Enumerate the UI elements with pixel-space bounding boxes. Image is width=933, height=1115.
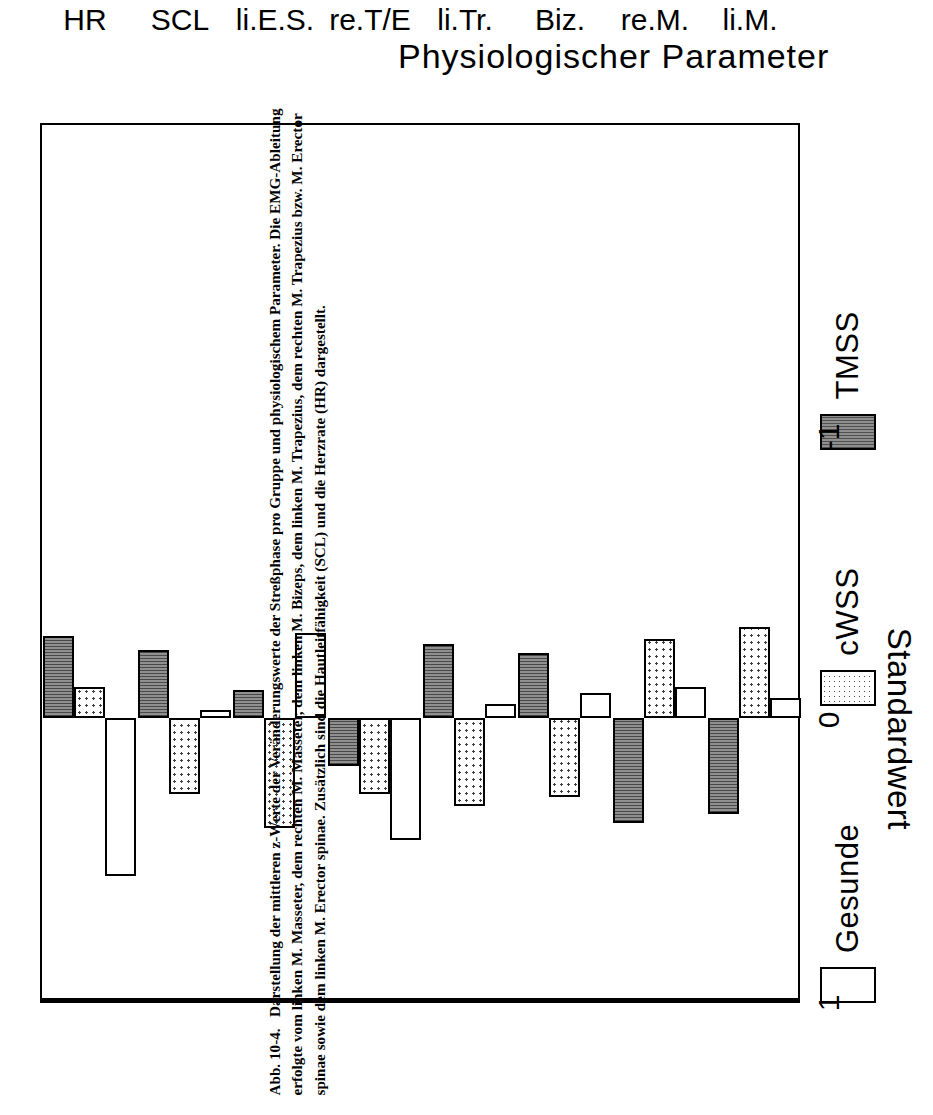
bar-gesunde-biz xyxy=(580,693,611,718)
figure-caption-text: Darstellung der mittleren z-Werte der Ve… xyxy=(266,109,328,1096)
legend-label-cwss: cWSS xyxy=(830,568,866,656)
bar-cwss-scl xyxy=(169,718,200,794)
y-axis-title: Standardwert xyxy=(880,628,918,830)
bar-tmss-hr xyxy=(43,636,74,718)
bar-gesunde-scl xyxy=(200,710,231,718)
legend-item-cwss: cWSS xyxy=(820,568,876,706)
y-tick-label-2: -1 xyxy=(812,407,846,467)
plot-area xyxy=(40,123,800,1003)
bar-tmss-scl xyxy=(138,650,169,718)
bar-gesunde-rete xyxy=(390,718,421,840)
bar-gesunde-litr xyxy=(485,704,516,718)
bar-gesunde-rem xyxy=(675,687,706,718)
legend-label-tmss: TMSS xyxy=(830,311,866,399)
figure-number: Abb. 10-4. xyxy=(266,1028,283,1095)
bar-cwss-lim xyxy=(739,627,770,718)
chart-figure: Gesunde cWSS TMSS 10-1 li.M.re.M.Biz.li.… xyxy=(0,0,933,1115)
bar-tmss-biz xyxy=(518,653,549,718)
bar-gesunde-hr xyxy=(105,718,136,876)
bar-tmss-rem xyxy=(613,718,644,823)
figure-caption: Abb. 10-4. Darstellung der mittleren z-W… xyxy=(264,96,331,1096)
x-axis-title: Physiologischer Parameter xyxy=(398,37,829,76)
bar-tmss-litr xyxy=(423,644,454,718)
bar-tmss-rete xyxy=(328,718,359,766)
bar-cwss-biz xyxy=(549,718,580,797)
y-tick-label-0: 1 xyxy=(812,973,846,1033)
bar-cwss-hr xyxy=(74,687,105,718)
zero-axis-line xyxy=(42,999,798,1002)
legend-label-gesunde: Gesunde xyxy=(830,824,866,953)
bar-cwss-rem xyxy=(644,639,675,718)
bar-tmss-lies xyxy=(233,690,264,718)
chart-legend: Gesunde cWSS TMSS xyxy=(818,123,878,1003)
figure-stage: Gesunde cWSS TMSS 10-1 li.M.re.M.Biz.li.… xyxy=(0,0,933,1115)
bar-cwss-rete xyxy=(359,718,390,794)
bar-gesunde-lim xyxy=(770,698,801,718)
x-tick-label-hr: HR xyxy=(0,3,170,37)
bar-cwss-litr xyxy=(454,718,485,806)
y-tick-label-1: 0 xyxy=(812,690,846,750)
bar-tmss-lim xyxy=(708,718,739,814)
